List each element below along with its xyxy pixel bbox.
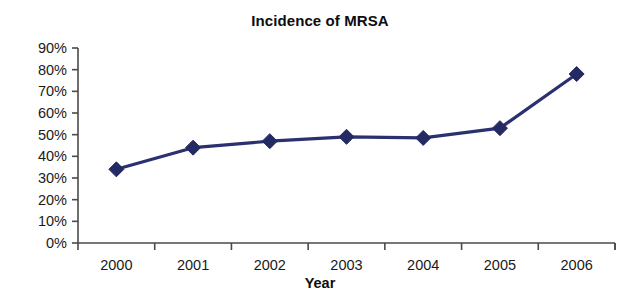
- x-axis-tick-label: 2000: [100, 257, 132, 273]
- y-axis-tick-label: 0%: [46, 235, 67, 251]
- data-series: [116, 74, 576, 169]
- y-axis-tick-label: 30%: [38, 170, 67, 186]
- y-axis-tick-label: 20%: [38, 192, 67, 208]
- y-axis-ticks: 0%10%20%30%40%50%60%70%80%90%: [38, 40, 78, 251]
- y-axis-tick-label: 50%: [38, 127, 67, 143]
- x-axis-tick-label: 2005: [484, 257, 516, 273]
- y-axis-tick-label: 90%: [38, 40, 67, 56]
- x-axis-tick-label: 2001: [177, 257, 209, 273]
- x-axis-tick-label: 2002: [254, 257, 286, 273]
- x-axis-tick-label: 2006: [561, 257, 593, 273]
- data-point-marker: [416, 130, 431, 145]
- data-point-marker: [339, 129, 354, 144]
- x-axis-ticks: 2000200120022003200420052006: [78, 243, 615, 273]
- chart-container: Incidence of MRSA 0%10%20%30%40%50%60%70…: [0, 0, 640, 303]
- y-axis-tick-label: 40%: [38, 148, 67, 164]
- y-axis-tick-label: 60%: [38, 105, 67, 121]
- x-axis-title: Year: [0, 275, 640, 291]
- series-line: [116, 74, 576, 169]
- y-axis-tick-label: 80%: [38, 62, 67, 78]
- chart-plot-area: 0%10%20%30%40%50%60%70%80%90% 2000200120…: [0, 0, 640, 303]
- x-axis-tick-label: 2004: [407, 257, 439, 273]
- data-point-markers: [109, 67, 584, 177]
- data-point-marker: [262, 134, 277, 149]
- x-axis-tick-label: 2003: [330, 257, 362, 273]
- y-axis-tick-label: 10%: [38, 213, 67, 229]
- data-point-marker: [186, 140, 201, 155]
- y-axis-tick-label: 70%: [38, 83, 67, 99]
- data-point-marker: [109, 162, 124, 177]
- axis-lines: [78, 48, 615, 243]
